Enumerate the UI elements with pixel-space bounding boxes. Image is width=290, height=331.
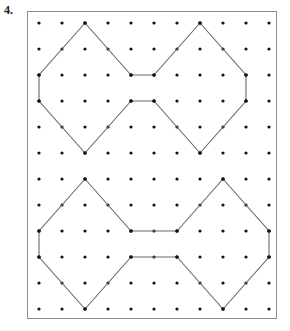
grid-dot — [221, 21, 224, 24]
grid-dot — [83, 229, 86, 232]
grid-dot — [244, 151, 247, 154]
grid-dot — [83, 99, 86, 102]
grid-dot — [60, 151, 63, 154]
shape-vertex-dot — [267, 255, 271, 259]
grid-dot — [106, 255, 109, 258]
grid-dot — [221, 99, 224, 102]
grid-dot — [175, 21, 178, 24]
grid-dot — [37, 203, 40, 206]
grid-dot — [83, 47, 86, 50]
shape-vertex-dot — [37, 99, 41, 103]
grid-dot — [106, 229, 109, 232]
grid-dot — [267, 281, 270, 284]
grid-dot — [37, 47, 40, 50]
shape-vertex-dot — [129, 99, 133, 103]
grid-dot — [198, 47, 201, 50]
grid-dot — [267, 203, 270, 206]
grid-dot — [129, 151, 132, 154]
shape-vertex-dot — [37, 229, 41, 233]
shape-vertex-dot — [198, 21, 202, 25]
shape-vertex-dot — [152, 99, 156, 103]
grid-dot — [244, 229, 247, 232]
grid-dot — [37, 151, 40, 154]
grid-dot — [83, 203, 86, 206]
grid-dot — [129, 307, 132, 310]
shape-vertex-dot — [175, 229, 179, 233]
grid-dot — [198, 99, 201, 102]
grid-dot — [175, 203, 178, 206]
worksheet-page: 4. — [0, 0, 290, 331]
grid-dot — [106, 151, 109, 154]
grid-dot — [83, 255, 86, 258]
grid-dot — [37, 307, 40, 310]
grid-dot — [152, 281, 155, 284]
grid-dot — [198, 73, 201, 76]
grid-dot — [37, 125, 40, 128]
grid-dot — [267, 99, 270, 102]
grid-dot — [152, 151, 155, 154]
shape-vertex-dot — [152, 73, 156, 77]
grid-dot — [83, 281, 86, 284]
grid-dot — [267, 151, 270, 154]
grid-dot — [37, 281, 40, 284]
shape-vertex-dot — [221, 177, 225, 181]
grid-dot — [129, 47, 132, 50]
grid-dot — [198, 125, 201, 128]
grid-dot — [106, 307, 109, 310]
grid-dot — [244, 47, 247, 50]
shape-vertex-dots — [37, 21, 271, 311]
grid-dot — [267, 307, 270, 310]
grid-dot — [267, 177, 270, 180]
grid-dot — [152, 125, 155, 128]
grid-dot — [198, 177, 201, 180]
grid-dot — [175, 99, 178, 102]
shape-outline-bottom-hexagon-pair — [39, 179, 269, 309]
grid-dot — [37, 21, 40, 24]
grid-dot — [175, 73, 178, 76]
grid-dot — [152, 203, 155, 206]
shape-vertex-dot — [129, 73, 133, 77]
geoboard-canvas — [28, 12, 278, 320]
shape-vertex-dot — [244, 73, 248, 77]
grid-dot — [267, 73, 270, 76]
grid-dot — [129, 125, 132, 128]
grid-dot — [221, 73, 224, 76]
grid-dot — [244, 125, 247, 128]
grid-dot — [267, 125, 270, 128]
grid-dot — [129, 281, 132, 284]
shape-outlines — [39, 23, 269, 309]
grid-dot — [267, 47, 270, 50]
shape-vertex-dot — [83, 21, 87, 25]
shape-vertex-dot — [129, 255, 133, 259]
grid-dot — [106, 73, 109, 76]
grid-dot — [60, 99, 63, 102]
grid-dot — [106, 99, 109, 102]
grid-dot — [152, 47, 155, 50]
grid-dot — [83, 125, 86, 128]
grid-dot — [221, 281, 224, 284]
grid-dot — [106, 177, 109, 180]
grid-dot — [175, 177, 178, 180]
geoboard-frame — [27, 11, 277, 319]
grid-dot — [129, 203, 132, 206]
grid-dot — [83, 73, 86, 76]
shape-vertex-dot — [198, 151, 202, 155]
problem-number-label: 4. — [4, 4, 13, 16]
grid-dot — [60, 229, 63, 232]
shape-outline-top-hexagon-pair — [39, 23, 246, 153]
shape-vertex-dot — [267, 229, 271, 233]
grid-dot — [60, 177, 63, 180]
grid-dot — [244, 21, 247, 24]
grid-dot — [221, 229, 224, 232]
grid-dot — [221, 151, 224, 154]
shape-vertex-dot — [83, 151, 87, 155]
grid-dot — [198, 307, 201, 310]
grid-dot — [244, 255, 247, 258]
shape-vertex-dot — [83, 307, 87, 311]
grid-dot — [198, 255, 201, 258]
shape-vertex-dot — [244, 99, 248, 103]
grid-dot — [175, 307, 178, 310]
grid-dot — [152, 21, 155, 24]
grid-dot — [60, 21, 63, 24]
grid-dot — [37, 177, 40, 180]
